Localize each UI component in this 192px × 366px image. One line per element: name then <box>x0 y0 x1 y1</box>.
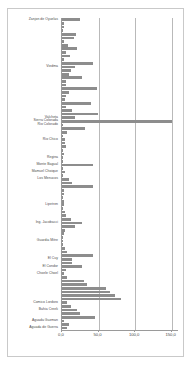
y-axis-label: Bahia Creek <box>39 308 58 312</box>
bar-row <box>62 149 179 152</box>
y-axis-label: Regina <box>47 156 58 160</box>
bar-row <box>62 153 179 156</box>
bar-row <box>62 251 179 254</box>
bar <box>62 247 65 250</box>
bar-row <box>62 276 179 279</box>
bar <box>62 287 106 290</box>
bar-row <box>62 247 179 250</box>
bar <box>62 309 77 312</box>
bar <box>62 305 71 308</box>
bar <box>62 193 64 196</box>
bar <box>62 106 66 109</box>
bar-row <box>62 214 179 217</box>
bar-row <box>62 164 179 167</box>
y-axis-label: Viedma <box>46 65 58 69</box>
bar-row <box>62 243 179 246</box>
bar <box>62 316 95 319</box>
y-axis-label: Monte Bagual <box>36 163 58 167</box>
bar <box>62 214 66 217</box>
y-axis-label: Rio Chico <box>43 138 58 142</box>
bar <box>62 251 67 254</box>
bar <box>62 124 63 127</box>
bar <box>62 87 97 90</box>
plot-area <box>61 18 178 330</box>
bar <box>62 76 82 79</box>
bar <box>62 66 75 69</box>
bar-row <box>62 294 179 297</box>
bar-row <box>62 120 179 123</box>
y-axis-label: Rio Colorado <box>38 123 58 127</box>
y-axis-label: Zanjon de Oyuelas <box>29 18 58 22</box>
bar <box>62 62 93 65</box>
bar-row <box>62 258 179 261</box>
bar <box>62 120 172 123</box>
bar-row <box>62 323 179 326</box>
bar <box>62 153 64 156</box>
bar-row <box>62 62 179 65</box>
bar-row <box>62 95 179 98</box>
bar <box>62 33 76 36</box>
bar-row <box>62 29 179 32</box>
bar-row <box>62 291 179 294</box>
bar <box>62 145 66 148</box>
bar-row <box>62 160 179 163</box>
bar-row <box>62 182 179 185</box>
x-tick-label: 100,0 <box>129 332 139 337</box>
bar-row <box>62 280 179 283</box>
bar-row <box>62 47 179 50</box>
bar <box>62 95 66 98</box>
bar <box>62 265 82 268</box>
bar-row <box>62 44 179 47</box>
bar-row <box>62 116 179 119</box>
bar-row <box>62 196 179 199</box>
y-axis-label: Ing. Jacobacci <box>36 221 58 225</box>
bar-row <box>62 91 179 94</box>
bar <box>62 69 71 72</box>
x-tick-label: 0,0 <box>58 332 64 337</box>
bar <box>62 149 63 152</box>
bar-row <box>62 309 179 312</box>
bar-row <box>62 109 179 112</box>
bar-row <box>62 51 179 54</box>
bar-row <box>62 229 179 232</box>
bar-row <box>62 254 179 257</box>
bar-row <box>62 287 179 290</box>
bar-row <box>62 142 179 145</box>
bar <box>62 211 65 214</box>
bar <box>62 116 75 119</box>
bar-row <box>62 283 179 286</box>
bar <box>62 156 63 159</box>
bar <box>62 37 74 40</box>
bar-row <box>62 58 179 61</box>
bar-row <box>62 189 179 192</box>
bar-row <box>62 222 179 225</box>
bar-row <box>62 320 179 323</box>
x-axis-ticks: 0,050,0100,0150,0 <box>61 332 191 344</box>
bar-row <box>62 37 179 40</box>
bar-row <box>62 156 179 159</box>
bar-row <box>62 98 179 101</box>
bar-row <box>62 225 179 228</box>
bar <box>62 127 85 130</box>
bar <box>62 174 63 177</box>
bar <box>62 29 63 32</box>
bar <box>62 225 75 228</box>
bar <box>62 84 66 87</box>
bar <box>62 254 93 257</box>
y-axis-label: Guardia Mitre <box>37 239 58 243</box>
y-axis-label: El Condor <box>42 265 58 269</box>
bar <box>62 182 72 185</box>
y-axis-labels: Zanjon de OyuelasViedmaValchetaSierra Co… <box>0 18 58 330</box>
bar-row <box>62 207 179 210</box>
bar-row <box>62 298 179 301</box>
bar-row <box>62 124 179 127</box>
bar <box>62 196 63 199</box>
bar-row <box>62 185 179 188</box>
bar-row <box>62 113 179 116</box>
bar <box>62 47 77 50</box>
bar-row <box>62 272 179 275</box>
bar-row <box>62 135 179 138</box>
bar <box>62 135 63 138</box>
bar <box>62 269 66 272</box>
bar <box>62 102 91 105</box>
